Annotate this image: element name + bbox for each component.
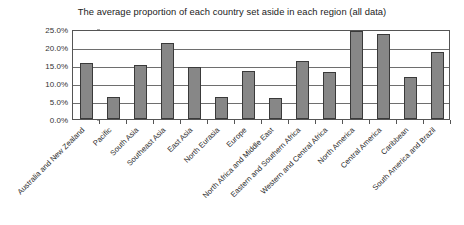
bar-chart: The average proportion of each country s…: [0, 0, 464, 225]
bar[interactable]: [350, 31, 362, 119]
bar[interactable]: [431, 52, 443, 119]
bar[interactable]: [404, 77, 416, 119]
chart-title: The average proportion of each country s…: [0, 6, 464, 17]
bar[interactable]: [80, 63, 92, 119]
y-tick-label: 15.0%: [45, 62, 68, 71]
plot-area: [72, 30, 450, 120]
bars-layer: [73, 31, 449, 119]
y-tick-label: 25.0%: [45, 26, 68, 35]
bar[interactable]: [269, 98, 281, 119]
x-axis-labels: Australia and New ZealandPacificSouth As…: [0, 124, 464, 225]
y-tick-label: 20.0%: [45, 44, 68, 53]
y-axis: 25.0%20.0%15.0%10.0%5.0%0.0%: [28, 30, 68, 120]
y-tick-label: 10.0%: [45, 80, 68, 89]
bar[interactable]: [377, 34, 389, 119]
y-tick-label: 5.0%: [50, 98, 68, 107]
x-axis-category-label: Australia and New Zealand: [0, 126, 86, 225]
bar[interactable]: [134, 65, 146, 119]
bar[interactable]: [161, 43, 173, 119]
bar[interactable]: [215, 97, 227, 119]
bar[interactable]: [107, 97, 119, 119]
bar[interactable]: [242, 71, 254, 119]
bar[interactable]: [188, 67, 200, 119]
bar[interactable]: [323, 72, 335, 119]
bar[interactable]: [296, 61, 308, 119]
